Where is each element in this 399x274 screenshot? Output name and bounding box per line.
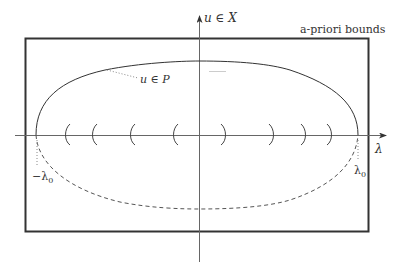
left-bifurcation-marks — [66, 124, 179, 145]
minus-lambda0-sub: 0 — [48, 176, 53, 185]
minus-lambda0-base: −λ — [32, 170, 48, 183]
a-priori-bounds-label: a-priori bounds — [300, 23, 386, 36]
lambda0-sub: 0 — [361, 170, 366, 179]
bifurcation-arc — [131, 124, 136, 145]
lambda0-base: λ — [354, 164, 361, 177]
right-bifurcation-marks — [221, 124, 332, 145]
bifurcation-arc — [327, 124, 332, 145]
bifurcation-arc — [174, 124, 179, 145]
u-axis-label: u ∈ X — [204, 11, 237, 25]
bifurcation-arc — [66, 124, 71, 145]
solution-curve-lower-dashed — [36, 135, 358, 209]
lambda0-label: λ0 — [354, 164, 366, 179]
bifurcation-arc — [301, 124, 306, 145]
diagram-canvas: u ∈ X a-priori bounds u ∈ P λ −λ0 λ0 — [0, 0, 399, 274]
lambda-axis-label: λ — [374, 142, 383, 156]
bifurcation-arc — [269, 124, 274, 145]
minus-lambda0-label: −λ0 — [32, 170, 53, 185]
u-in-p-leader — [107, 70, 138, 78]
u-in-p-label: u ∈ P — [140, 73, 170, 86]
bifurcation-arc — [221, 124, 226, 145]
solution-curve-upper — [36, 61, 358, 135]
bifurcation-arc — [93, 124, 98, 145]
